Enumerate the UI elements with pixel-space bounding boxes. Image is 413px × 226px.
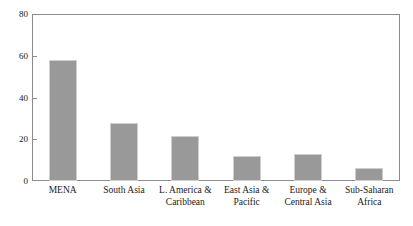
bar-mena: [49, 60, 77, 181]
y-axis-tick-label: 60: [0, 52, 28, 61]
x-axis-label-europe: Europe & Central Asia: [275, 185, 341, 208]
plot-area: [32, 14, 400, 181]
x-axis-label-south-asia: South Asia: [91, 185, 157, 197]
y-axis-tick-label: 80: [0, 10, 28, 19]
bar-chart-figure: 80 60 40 20 0 MENA South Asia L. America…: [0, 0, 413, 226]
y-axis-tick-mark: [33, 56, 37, 57]
bar-sub-saharan: [355, 168, 383, 181]
y-axis-tick-mark: [33, 139, 37, 140]
bar-latin-america: [171, 136, 199, 181]
x-axis-label-sub-saharan: Sub-Saharan Africa: [336, 185, 402, 208]
x-axis-label-latin-america: L. America & Caribbean: [152, 185, 218, 208]
y-axis-tick-label: 20: [0, 135, 28, 144]
y-axis-tick-mark: [33, 98, 37, 99]
bar-south-asia: [110, 123, 138, 181]
y-axis-tick-label: 40: [0, 94, 28, 103]
x-axis-label-mena: MENA: [30, 185, 96, 197]
y-axis-tick-label: 0: [0, 177, 28, 186]
bar-europe: [294, 154, 322, 181]
bar-east-asia: [233, 156, 261, 181]
x-axis-label-east-asia: East Asia & Pacific: [214, 185, 280, 208]
